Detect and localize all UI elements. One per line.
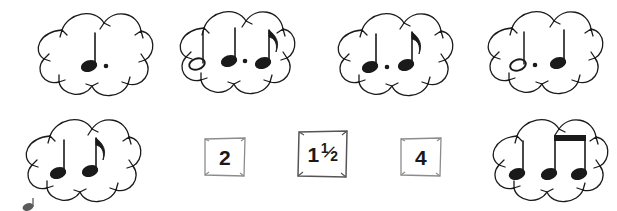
note-1-quarter-note xyxy=(48,140,68,181)
eighth-flag xyxy=(412,32,421,54)
note-2-quarter-note xyxy=(548,30,568,71)
note-1-dotted-half xyxy=(509,32,538,73)
note-1-dotted-quarter xyxy=(79,33,108,74)
cloud-outline xyxy=(180,12,295,94)
augmentation-dot xyxy=(104,64,109,69)
note-group-1[interactable] xyxy=(28,6,158,106)
cloud-outline xyxy=(493,120,608,202)
note-1-dotted-quarter xyxy=(360,34,389,75)
note-1-quarter-note xyxy=(507,141,527,182)
fraction-one-half: 1⁄2 xyxy=(321,147,339,161)
cloud-outline xyxy=(26,120,141,202)
value-box-4-label: 4 xyxy=(399,136,443,178)
note-1-half-note xyxy=(188,31,207,72)
value-box-one-and-a-half-label: 11⁄2 xyxy=(296,128,350,180)
cropped-note-fragment xyxy=(22,196,36,211)
note-group-3[interactable] xyxy=(330,6,458,106)
note-3-eighth-note xyxy=(253,30,277,71)
augmentation-dot xyxy=(385,65,390,70)
cloud-outline xyxy=(488,12,603,94)
note-group-2[interactable] xyxy=(172,4,302,106)
value-box-2[interactable]: 2 xyxy=(203,136,247,178)
note-group-4[interactable] xyxy=(480,4,610,106)
beamed-eighth-note-pair xyxy=(539,135,589,182)
value-box-one-and-a-half[interactable]: 11⁄2 xyxy=(296,128,350,180)
beam xyxy=(554,135,586,141)
note-group-5[interactable] xyxy=(18,112,148,211)
value-box-2-label: 2 xyxy=(203,136,247,178)
note-group-6[interactable] xyxy=(485,112,615,211)
note-2-eighth-note xyxy=(396,32,420,73)
value-box-4[interactable]: 4 xyxy=(399,136,443,178)
note-value-worksheet: 2 11⁄2 4 xyxy=(0,0,617,211)
cloud-outline xyxy=(338,14,453,96)
note-2-dotted-quarter xyxy=(219,28,247,69)
note-2-eighth-note xyxy=(80,138,104,179)
augmentation-dot xyxy=(533,63,538,68)
eighth-flag xyxy=(96,138,105,160)
eighth-flag xyxy=(269,30,278,52)
augmentation-dot xyxy=(243,59,248,64)
